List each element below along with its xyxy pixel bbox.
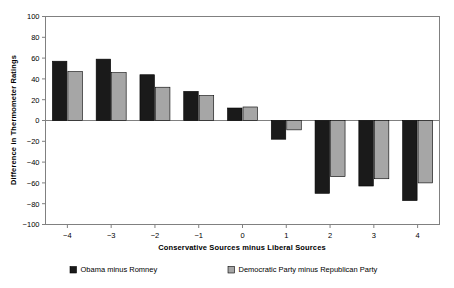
bar-democratic-party-minus-republican-party--1 [199, 96, 214, 121]
bar-obama-minus-romney--4 [52, 61, 66, 120]
legend-label: Democratic Party minus Republican Party [239, 265, 378, 274]
legend-label: Obama minus Romney [81, 265, 158, 274]
bar-obama-minus-romney-0 [228, 108, 243, 120]
bar-democratic-party-minus-republican-party-4 [418, 121, 433, 183]
bar-democratic-party-minus-republican-party-3 [374, 121, 389, 179]
bar-democratic-party-minus-republican-party--2 [155, 87, 170, 120]
x-tick-label: −3 [107, 231, 116, 240]
y-tick-label: 0 [35, 116, 39, 125]
y-tick-label: 40 [31, 75, 39, 84]
bar-obama-minus-romney--2 [140, 75, 155, 121]
y-tick-label: −20 [27, 137, 40, 146]
x-tick-label: −4 [63, 231, 72, 240]
x-tick-label: 0 [240, 231, 244, 240]
bar-democratic-party-minus-republican-party--4 [68, 72, 83, 121]
bar-obama-minus-romney-4 [403, 121, 418, 201]
x-tick-label: 1 [284, 231, 288, 240]
y-tick-label: 60 [31, 54, 39, 63]
x-tick-label: 2 [328, 231, 332, 240]
y-tick-label: 100 [27, 12, 40, 21]
bar-obama-minus-romney--1 [184, 91, 199, 120]
y-tick-label: −100 [23, 220, 40, 229]
bar-democratic-party-minus-republican-party-1 [287, 121, 302, 130]
x-tick-label: 3 [372, 231, 376, 240]
bar-democratic-party-minus-republican-party-0 [243, 107, 258, 121]
y-tick-label: −60 [27, 179, 40, 188]
bar-obama-minus-romney-2 [315, 121, 330, 194]
y-tick-label: −80 [27, 200, 40, 209]
chart-figure: 100806040200−20−40−60−80−100 −4−3−2−1012… [0, 0, 454, 288]
bar-obama-minus-romney-1 [271, 121, 286, 140]
bar-obama-minus-romney--3 [96, 59, 111, 120]
x-axis-title: Conservative Sources minus Liberal Sourc… [158, 243, 326, 252]
y-axis-title: Difference in Thermometer Ratings [9, 55, 18, 185]
bar-obama-minus-romney-3 [359, 121, 374, 187]
bar-democratic-party-minus-republican-party-2 [331, 121, 346, 177]
legend-swatch [228, 267, 235, 274]
x-tick-label: −1 [194, 231, 203, 240]
bar-chart-svg: 100806040200−20−40−60−80−100 −4−3−2−1012… [0, 0, 454, 288]
y-tick-label: 80 [31, 33, 39, 42]
x-tick-label: −2 [151, 231, 160, 240]
y-tick-label: −40 [27, 158, 40, 167]
x-tick-label: 4 [416, 231, 420, 240]
bar-democratic-party-minus-republican-party--3 [112, 73, 127, 121]
y-tick-label: 20 [31, 96, 39, 105]
legend-swatch [70, 267, 77, 274]
